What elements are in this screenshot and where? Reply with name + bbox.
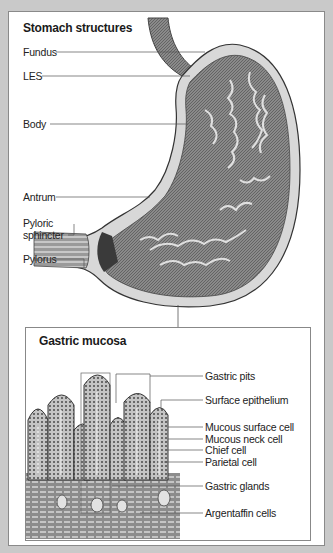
label-parietal-cell: Parietal cell: [205, 456, 257, 468]
label-mucous-surface-cell: Mucous surface cell: [205, 421, 294, 433]
label-gastric-pits: Gastric pits: [205, 370, 255, 382]
label-chief-cell: Chief cell: [205, 444, 246, 456]
mucosal-folds: [28, 375, 168, 480]
label-gastric-glands: Gastric glands: [205, 480, 269, 492]
mucosa-illustration: [0, 0, 333, 553]
mucosa-title: Gastric mucosa: [39, 334, 126, 348]
label-surface-epithelium: Surface epithelium: [205, 394, 288, 406]
label-argentaffin-cells: Argentaffin cells: [205, 507, 276, 519]
